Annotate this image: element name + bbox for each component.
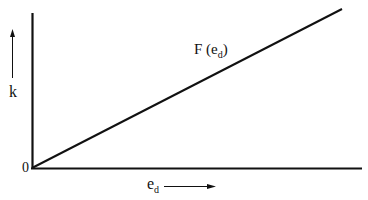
y-arrow-icon <box>10 29 15 78</box>
curve-label: F (ed) <box>194 41 228 60</box>
origin-label: 0 <box>22 160 29 176</box>
x-axis-label-sub: d <box>154 184 159 195</box>
curve-label-close: ) <box>223 41 228 57</box>
function-line <box>32 9 342 168</box>
y-axis-label: k <box>9 83 17 101</box>
x-arrow-icon <box>164 184 216 189</box>
curve-label-main: F (e <box>194 41 218 57</box>
x-axis-label: ed <box>147 175 159 195</box>
diagram-canvas <box>0 0 368 200</box>
